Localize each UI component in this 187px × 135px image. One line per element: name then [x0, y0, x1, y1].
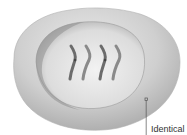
identical-label: Identical: [151, 124, 185, 135]
cell-diagram: [0, 0, 187, 135]
centromere-1: [74, 59, 77, 62]
centromere-3: [104, 59, 107, 62]
